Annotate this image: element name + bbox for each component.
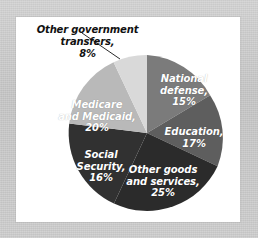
slice-label-medicare-and-medicaid: Medicare and Medicaid, 20% — [54, 99, 140, 134]
slice-label-education: Education, 17% — [158, 126, 230, 149]
chart-screenshot: National defense, 15% Education, 17% Oth… — [0, 0, 258, 238]
pie-chart: National defense, 15% Education, 17% Oth… — [16, 17, 240, 222]
slice-label-other-goods-and-services: Other goods and services, 25% — [121, 164, 205, 199]
chart-panel: National defense, 15% Education, 17% Oth… — [16, 17, 240, 222]
slice-label-national-defense: National defense, 15% — [153, 73, 215, 108]
slice-label-other-government-transfers: Other government transfers, 8% — [20, 24, 155, 60]
slice-label-social-security: Social Security, 16% — [70, 149, 132, 184]
